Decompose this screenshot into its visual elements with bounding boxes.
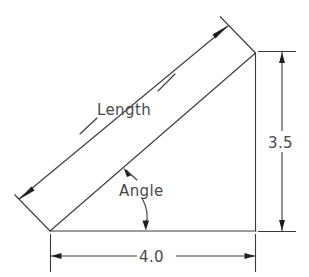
triangle-dimension-diagram: Length Angle 3.5 [0,0,309,277]
angle-annotation-group: Angle [119,168,164,231]
length-arrow-upper-icon [213,26,229,39]
length-arrow-lower-icon [19,187,35,200]
height-arrow-bottom-icon [279,220,285,231]
height-dimension-label: 3.5 [268,134,293,152]
length-extension-line-upper [220,17,256,54]
angle-arrow-base-icon [143,221,150,231]
diagram-canvas: Length Angle 3.5 [0,0,309,277]
base-arrow-right-icon [245,253,256,259]
length-extension-line-lower [15,195,51,232]
angle-arrow-hypotenuse-icon [124,168,132,178]
base-arrow-left-icon [51,253,62,259]
base-dimension-group: 4.0 [51,234,256,272]
angle-label: Angle [119,182,164,200]
height-dimension-group: 3.5 [258,52,296,232]
length-leader-lower [80,118,97,134]
length-label: Length [97,101,151,119]
triangle-shape [50,53,256,231]
base-dimension-label: 4.0 [139,248,164,266]
triangle-hypotenuse-line [50,53,256,231]
height-arrow-top-icon [279,53,285,64]
